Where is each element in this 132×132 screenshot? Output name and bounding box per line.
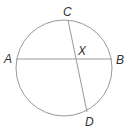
label-a: A bbox=[3, 52, 12, 66]
chord-cd bbox=[68, 20, 87, 112]
label-d: D bbox=[85, 115, 94, 129]
circle bbox=[16, 20, 112, 116]
label-x: X bbox=[77, 44, 87, 58]
label-c: C bbox=[63, 5, 72, 19]
circle-diagram: A B C D X bbox=[0, 0, 132, 132]
label-b: B bbox=[116, 53, 124, 67]
